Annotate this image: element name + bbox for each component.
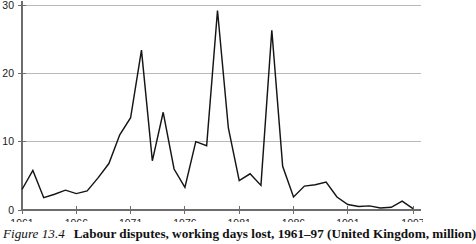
figure-caption: Figure 13.4Labour disputes, working days… [3, 226, 423, 242]
figure-number: Figure 13.4 [3, 226, 65, 241]
x-tick-label-1981: 1981 [228, 217, 252, 222]
figure-caption-text: Labour disputes, working days lost, 1961… [74, 226, 476, 241]
x-tick-label-1966: 1966 [65, 217, 89, 222]
x-axis-tick-labels: 19611966197119761981198619911997 [10, 217, 423, 222]
y-tick-label-30: 30 [2, 0, 14, 11]
x-tick-label-1997: 1997 [401, 217, 423, 222]
chart-plot-area: 0102030 19611966197119761981198619911997 [0, 0, 423, 222]
y-tick-label-20: 20 [2, 67, 14, 79]
y-tick-label-0: 0 [8, 204, 14, 216]
series-line-working-days-lost [22, 10, 413, 208]
x-tick-label-1986: 1986 [282, 217, 306, 222]
x-tick-label-1971: 1971 [119, 217, 143, 222]
x-tick-label-1976: 1976 [173, 217, 197, 222]
line-chart-svg: 0102030 19611966197119761981198619911997 [0, 0, 423, 222]
gridlines [22, 5, 421, 210]
y-axis-tick-labels: 0102030 [2, 0, 14, 216]
y-tick-label-10: 10 [2, 135, 14, 147]
axis-lines [22, 1, 421, 210]
data-series-group [22, 10, 413, 208]
x-tick-label-1961: 1961 [10, 217, 34, 222]
x-tick-label-1991: 1991 [336, 217, 360, 222]
